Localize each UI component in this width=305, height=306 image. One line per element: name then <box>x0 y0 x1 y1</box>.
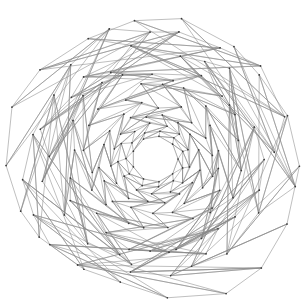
mesh-node <box>105 204 107 206</box>
mesh-node <box>133 166 135 168</box>
mesh-node <box>294 186 296 188</box>
mesh-figure <box>0 0 305 306</box>
mesh-node <box>145 116 147 118</box>
mesh-node <box>53 94 55 96</box>
mesh-node <box>172 143 174 145</box>
mesh-node <box>261 267 263 269</box>
mesh-node <box>286 223 288 225</box>
mesh-node <box>69 200 71 202</box>
mesh-node <box>131 142 133 144</box>
mesh-node <box>192 218 194 220</box>
mesh-node <box>205 105 207 107</box>
mesh-node <box>72 120 74 122</box>
mesh-node <box>212 155 214 157</box>
mesh-node <box>128 173 130 175</box>
mesh-node <box>178 31 180 33</box>
mesh-node <box>151 193 153 195</box>
mesh-node <box>258 189 260 191</box>
mesh-node <box>173 137 175 139</box>
mesh-node <box>179 55 181 57</box>
mesh-node <box>82 95 84 97</box>
mesh-node <box>232 197 234 199</box>
mesh-node <box>182 182 184 184</box>
mesh-node <box>131 264 133 266</box>
mesh-node <box>225 293 227 295</box>
mesh-node <box>219 47 221 49</box>
mesh-node <box>151 73 153 75</box>
mesh-node <box>128 249 130 251</box>
mesh-node <box>158 186 160 188</box>
mesh-node <box>191 182 193 184</box>
mesh-node <box>182 151 184 153</box>
mesh-node <box>299 165 301 167</box>
mesh-node <box>91 189 93 191</box>
mesh-node <box>105 232 107 234</box>
mesh-node <box>123 113 125 115</box>
mesh-node <box>181 18 183 20</box>
mesh-node <box>32 134 34 136</box>
mesh-node <box>109 130 111 132</box>
mesh-node <box>201 75 203 77</box>
mesh-node <box>134 131 136 133</box>
mesh-node <box>226 253 228 255</box>
mesh-node <box>117 161 119 163</box>
mesh-node <box>83 76 85 78</box>
mesh-node <box>253 126 255 128</box>
mesh-node <box>83 150 85 152</box>
mesh-node <box>199 169 201 171</box>
mesh-node <box>20 210 22 212</box>
mesh-node <box>113 148 115 150</box>
mesh-node <box>180 106 182 108</box>
mesh-node <box>39 69 41 71</box>
mesh-node <box>172 80 174 82</box>
mesh-node <box>172 212 174 214</box>
mesh-node <box>237 140 239 142</box>
mesh-node <box>158 136 160 138</box>
mesh-node <box>49 244 51 246</box>
mesh-node <box>209 212 211 214</box>
mesh-node <box>217 228 219 230</box>
mesh-node <box>218 150 220 152</box>
mesh-node <box>211 207 213 209</box>
mesh-node <box>143 178 145 180</box>
mesh-node <box>110 165 112 167</box>
mesh-node <box>189 133 191 135</box>
mesh-node <box>144 132 146 134</box>
mesh-node <box>120 133 122 135</box>
mesh-node <box>88 125 90 127</box>
mesh-node <box>130 45 132 47</box>
mesh-node <box>101 82 103 84</box>
mesh-node <box>161 114 163 116</box>
mesh-node <box>170 275 172 277</box>
mesh-node <box>143 138 145 140</box>
mesh-node <box>97 108 99 110</box>
mesh-node <box>183 202 185 204</box>
mesh-node <box>159 130 161 132</box>
mesh-node <box>273 151 275 153</box>
mesh-node <box>74 149 76 151</box>
mesh-node <box>42 180 44 182</box>
mesh-node <box>141 102 143 104</box>
mesh-node <box>91 172 93 174</box>
mesh-node <box>205 253 207 255</box>
mesh-node <box>287 115 289 117</box>
mesh-node <box>125 99 127 101</box>
mesh-node <box>162 84 164 86</box>
mesh-node <box>234 114 236 116</box>
mesh-node <box>70 97 72 99</box>
mesh-node <box>128 222 130 224</box>
mesh-node <box>263 159 265 161</box>
mesh-node <box>87 38 89 40</box>
mesh-node <box>219 190 221 192</box>
mesh-node <box>182 167 184 169</box>
mesh-node <box>11 106 13 108</box>
mesh-node <box>229 104 231 106</box>
mesh-node <box>179 133 181 135</box>
mesh-node <box>136 189 138 191</box>
mesh-node <box>119 254 121 256</box>
mesh-node <box>198 149 200 151</box>
mesh-node <box>170 191 172 193</box>
mesh-node <box>123 175 125 177</box>
mesh-node <box>191 265 193 267</box>
mesh-node <box>202 187 204 189</box>
